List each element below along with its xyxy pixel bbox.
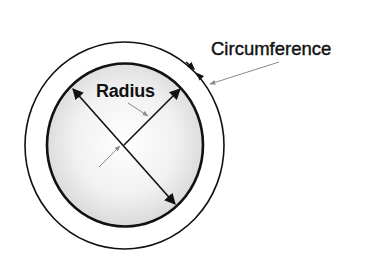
circumference-label: Circumference <box>211 40 331 59</box>
radius-label: Radius <box>96 82 155 100</box>
circumference-pointer <box>210 62 279 84</box>
